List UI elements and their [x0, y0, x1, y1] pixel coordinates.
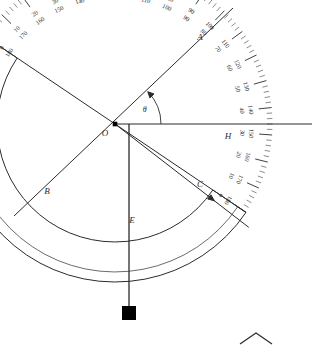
tick-major [259, 134, 272, 135]
tick-minor [249, 195, 254, 198]
tick-major [254, 81, 266, 85]
scale-label-inner: 70 [214, 44, 223, 53]
tick-minor [262, 86, 267, 87]
scale-label-inner: 140 [74, 0, 85, 6]
tick-minor [260, 171, 265, 173]
tick-minor [265, 97, 270, 98]
scale-label-inner: 20 [235, 151, 243, 159]
tick-minor [228, 19, 232, 23]
scale-label-outer: 90 [187, 6, 196, 15]
scale-label-inner: 150 [53, 4, 64, 14]
scale-label-outer: 130 [242, 81, 251, 92]
tick-major [2, 15, 11, 24]
tick-major [245, 55, 257, 61]
tick-minor [6, 11, 10, 15]
tick-minor [249, 50, 254, 53]
tick-minor [258, 70, 263, 72]
tick-minor [247, 200, 252, 203]
scale-label-inner: 50 [234, 85, 242, 93]
tick-minor [14, 3, 18, 7]
angle-arc-arrowhead [148, 92, 154, 98]
scale-label-inner: 130 [97, 0, 107, 1]
tick-minor [235, 27, 239, 30]
point-label-o: O [102, 128, 109, 138]
tick-minor [231, 23, 235, 27]
scale-label-inner: 110 [141, 0, 151, 4]
tick-major [196, 0, 203, 4]
point-label-c: C [197, 179, 204, 189]
tick-minor [244, 41, 249, 44]
tick-minor [18, 0, 21, 4]
scale-label-outer: 160 [243, 152, 252, 163]
scale-label-outer: 20 [30, 8, 39, 17]
tick-minor [264, 91, 269, 92]
tick-major [232, 31, 243, 39]
tick-minor [209, 0, 212, 4]
tick-minor [264, 156, 269, 157]
tick-minor [204, 0, 207, 1]
tick-minor [256, 181, 261, 183]
point-label-b: B [44, 186, 50, 196]
tick-minor [260, 75, 265, 77]
tick-major [247, 183, 259, 188]
tick-minor [244, 205, 249, 208]
tick-minor [266, 145, 271, 146]
tick-minor [10, 7, 14, 11]
center-point-marker [113, 122, 118, 127]
scale-label-inner: 10 [228, 172, 237, 180]
point-label-h: H [224, 131, 232, 141]
tick-minor [247, 45, 252, 48]
protractor-body [0, 36, 246, 282]
scale-label-outer: 140 [247, 105, 255, 115]
tick-minor [254, 60, 259, 62]
figure-canvas: 0180101702016030150401405013060120701108… [0, 0, 318, 345]
angle-theta-label: θ [143, 105, 147, 114]
tick-minor [261, 166, 266, 168]
point-label-a: A [196, 32, 203, 42]
tick-major [255, 159, 268, 162]
tick-minor [265, 150, 270, 151]
tick-minor [217, 7, 221, 11]
tick-minor [266, 140, 271, 141]
tick-major [259, 108, 272, 109]
tick-minor [241, 36, 246, 39]
tick-minor [256, 65, 261, 67]
scale-label-inner: 60 [226, 64, 235, 73]
tick-major [215, 11, 224, 20]
scale-label-inner: 100 [161, 2, 172, 12]
tick-minor [266, 102, 271, 103]
tick-major [22, 0, 30, 7]
tick-minor [0, 19, 2, 23]
scale-label-inner: 90 [182, 13, 191, 22]
tick-minor [258, 176, 263, 178]
scale-label-inner: 30 [239, 130, 246, 137]
tick-minor [252, 191, 257, 193]
tick-minor [213, 3, 217, 7]
scale-label-inner: 40 [239, 107, 247, 114]
scale-label-outer: 150 [248, 129, 256, 139]
protractor-diagram: 0180101702016030150401405013060120701108… [0, 0, 318, 345]
plumb-bob-weight [123, 307, 136, 320]
chevron-apex-icon [240, 333, 272, 344]
point-label-e: E [128, 215, 135, 225]
